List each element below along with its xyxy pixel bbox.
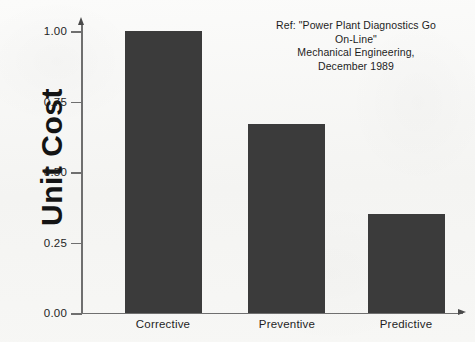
y-tick-label: 0.50 — [44, 166, 67, 178]
y-tick-mark — [71, 172, 82, 174]
bar-chart: Unit Cost 1.00 0.75 0.50 0.25 0.00 Corre… — [0, 0, 475, 342]
reference-annotation: Ref: "Power Plant Diagnostics Go On-Line… — [258, 19, 454, 73]
y-tick-label: 1.00 — [44, 25, 67, 37]
y-tick-mark — [71, 313, 82, 315]
annotation-line: Mechanical Engineering, — [258, 46, 454, 60]
annotation-line: On-Line" — [258, 33, 454, 47]
y-axis-title: Unit Cost — [35, 57, 69, 257]
y-axis-arrow-icon — [78, 17, 84, 25]
annotation-line: December 1989 — [258, 60, 454, 74]
y-axis-line — [81, 24, 83, 314]
annotation-line: Ref: "Power Plant Diagnostics Go — [258, 19, 454, 33]
x-category-label-preventive: Preventive — [259, 318, 315, 330]
bar-predictive — [368, 214, 445, 313]
x-axis-arrow-icon — [458, 309, 466, 315]
x-category-label-predictive: Predictive — [380, 318, 433, 330]
y-tick-mark — [71, 31, 82, 33]
y-tick-label: 0.00 — [44, 307, 67, 319]
bar-corrective — [125, 31, 202, 313]
y-tick-label: 0.25 — [44, 237, 67, 249]
y-tick-mark — [71, 243, 82, 245]
bar-preventive — [248, 124, 325, 313]
x-category-label-corrective: Corrective — [136, 318, 190, 330]
y-tick-label: 0.75 — [44, 96, 67, 108]
y-tick-mark — [71, 102, 82, 104]
